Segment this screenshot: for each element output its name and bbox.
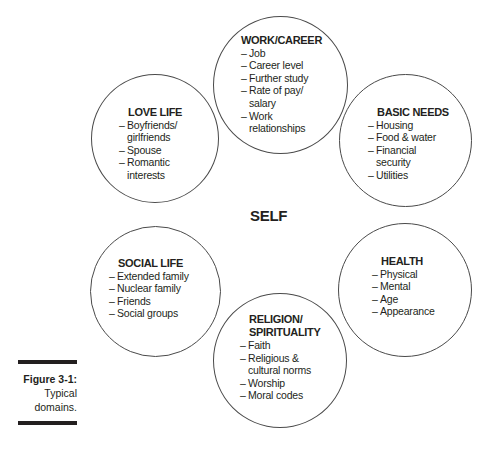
domain-item: Spouse	[119, 144, 182, 157]
domain-item: Housing	[368, 119, 449, 132]
domain-item: Food & water	[368, 131, 449, 144]
domain-title: RELIGION/ SPIRITUALITY	[240, 313, 321, 339]
domain-social-life: SOCIAL LIFE Extended family Nuclear fami…	[109, 257, 189, 320]
domain-basic-needs: BASIC NEEDS Housing Food & water Financi…	[368, 106, 449, 182]
figure-caption: Figure 3-1: Typical domains.	[10, 372, 77, 414]
domain-item: Work relationships	[241, 110, 322, 135]
domain-items: Boyfriends/ girlfriends Spouse Romantic …	[119, 119, 182, 182]
center-label-self: SELF	[250, 207, 287, 224]
domain-item: Further study	[241, 72, 322, 85]
domain-item: Religious & cultural norms	[240, 352, 321, 377]
domain-item: Rate of pay/ salary	[241, 84, 322, 109]
domain-item: Worship	[240, 377, 321, 390]
domain-item: Mental	[372, 280, 435, 293]
domain-item: Appearance	[372, 305, 435, 318]
domain-title: HEALTH	[372, 255, 435, 268]
domain-items: Job Career level Further study Rate of p…	[241, 47, 322, 135]
domain-item: Career level	[241, 59, 322, 72]
domain-title: SOCIAL LIFE	[109, 257, 189, 270]
domain-items: Physical Mental Age Appearance	[372, 268, 435, 318]
domain-item: Utilities	[368, 169, 449, 182]
caption-top-rule	[18, 360, 77, 364]
domain-religion-spirituality: RELIGION/ SPIRITUALITY Faith Religious &…	[240, 313, 321, 402]
domain-item: Age	[372, 293, 435, 306]
caption-line-1: Typical	[10, 386, 77, 400]
domain-health: HEALTH Physical Mental Age Appearance	[372, 255, 435, 318]
domain-item: Nuclear family	[109, 282, 189, 295]
domain-title: BASIC NEEDS	[368, 106, 449, 119]
domain-item: Job	[241, 47, 322, 60]
domain-items: Faith Religious & cultural norms Worship…	[240, 339, 321, 402]
domain-item: Boyfriends/ girlfriends	[119, 119, 182, 144]
domain-item: Financial security	[368, 144, 449, 169]
domain-item: Extended family	[109, 270, 189, 283]
domain-items: Extended family Nuclear family Friends S…	[109, 270, 189, 320]
domain-item: Romantic interests	[119, 156, 182, 181]
figure-number: Figure 3-1:	[10, 372, 77, 386]
domain-title: WORK/CAREER	[241, 34, 322, 47]
domain-item: Physical	[372, 268, 435, 281]
domain-item: Faith	[240, 339, 321, 352]
domain-items: Housing Food & water Financial security …	[368, 119, 449, 182]
domain-item: Social groups	[109, 307, 189, 320]
caption-line-2: domains.	[10, 400, 77, 414]
domain-item: Friends	[109, 295, 189, 308]
domain-work-career: WORK/CAREER Job Career level Further stu…	[241, 34, 322, 135]
domain-title: LOVE LIFE	[119, 106, 182, 119]
domain-item: Moral codes	[240, 389, 321, 402]
domain-love-life: LOVE LIFE Boyfriends/ girlfriends Spouse…	[119, 106, 182, 182]
caption-bottom-rule	[18, 421, 77, 425]
